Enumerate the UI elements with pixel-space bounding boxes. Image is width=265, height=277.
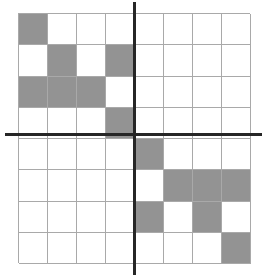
grid-cell-empty xyxy=(164,45,193,76)
grid-cell-filled xyxy=(222,170,251,201)
grid-cell-empty xyxy=(77,202,106,233)
grid-cell-empty xyxy=(77,14,106,45)
grid-cell-empty xyxy=(106,233,135,264)
grid-cell-empty xyxy=(77,170,106,201)
grid-cell-empty xyxy=(222,45,251,76)
grid-cell-empty xyxy=(48,233,77,264)
grid-cell-empty xyxy=(106,202,135,233)
grid-cell-empty xyxy=(106,170,135,201)
grid-cell-filled xyxy=(19,77,48,108)
grid-cell-empty xyxy=(135,14,164,45)
grid-cell-filled xyxy=(164,170,193,201)
grid-cell-empty xyxy=(48,170,77,201)
grid-cell-empty xyxy=(193,233,222,264)
grid-figure xyxy=(0,0,265,277)
grid-cell-empty xyxy=(77,45,106,76)
grid-cell-empty xyxy=(19,45,48,76)
vertical-axis-line xyxy=(133,2,136,275)
grid-cell-empty xyxy=(19,202,48,233)
grid-cell-empty xyxy=(164,202,193,233)
grid-cell-filled xyxy=(193,170,222,201)
grid-cell-empty xyxy=(222,202,251,233)
grid-cell-empty xyxy=(106,139,135,170)
grid-cell-empty xyxy=(193,45,222,76)
grid-cell-empty xyxy=(193,77,222,108)
grid-cell-filled xyxy=(48,45,77,76)
grid-cell-filled xyxy=(19,14,48,45)
grid-cell-filled xyxy=(48,77,77,108)
grid-cell-empty xyxy=(106,14,135,45)
grid-cell-filled xyxy=(135,139,164,170)
grid-cell-empty xyxy=(193,14,222,45)
grid-cell-empty xyxy=(48,139,77,170)
grid-cell-empty xyxy=(77,233,106,264)
grid-cell-empty xyxy=(19,170,48,201)
grid-cell-empty xyxy=(164,233,193,264)
grid-cell-filled xyxy=(106,45,135,76)
grid-cell-empty xyxy=(19,139,48,170)
grid-cell-filled xyxy=(193,202,222,233)
grid-cell-filled xyxy=(135,202,164,233)
grid-cell-empty xyxy=(135,45,164,76)
grid-cell-empty xyxy=(164,77,193,108)
grid-cell-empty xyxy=(135,77,164,108)
grid-cell-empty xyxy=(48,202,77,233)
grid-cell-empty xyxy=(135,170,164,201)
grid-cell-empty xyxy=(135,233,164,264)
grid-cell-empty xyxy=(48,14,77,45)
grid-cell-empty xyxy=(106,77,135,108)
grid-cell-empty xyxy=(164,139,193,170)
grid-cell-empty xyxy=(222,77,251,108)
grid-cell-empty xyxy=(193,139,222,170)
grid-cell-empty xyxy=(164,14,193,45)
grid-cell-empty xyxy=(222,14,251,45)
grid-cell-filled xyxy=(77,77,106,108)
grid-cell-empty xyxy=(222,139,251,170)
grid-cell-empty xyxy=(19,233,48,264)
grid-cell-empty xyxy=(77,139,106,170)
grid-cell-filled xyxy=(222,233,251,264)
